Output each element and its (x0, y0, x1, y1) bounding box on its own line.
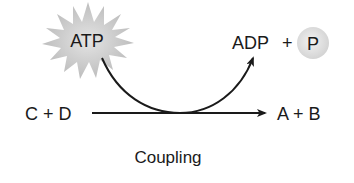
reactants-label: C + D (25, 104, 72, 124)
energy-transfer-arrow (102, 58, 253, 113)
products-label: A + B (277, 104, 321, 124)
diagram-caption: Coupling (134, 148, 201, 167)
atp-starburst: ATP (42, 2, 134, 79)
adp-label: ADP (232, 33, 269, 53)
plus-sign: + (282, 33, 293, 53)
atp-label: ATP (70, 31, 104, 51)
phosphate-label: P (307, 34, 319, 54)
coupling-diagram: ATP ADP + P C + D A + B Coupling (0, 0, 354, 183)
atp-products: ADP + P (232, 27, 329, 59)
